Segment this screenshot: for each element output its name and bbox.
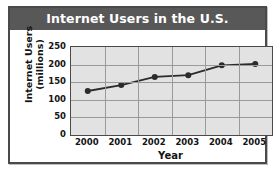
data-point-marker: [152, 74, 158, 80]
x-axis-tick-label: 2002: [142, 137, 166, 147]
gridline-vertical: [172, 47, 173, 135]
x-axis-tick-label: 2003: [175, 137, 199, 147]
x-axis-tick-label: 2001: [108, 137, 132, 147]
data-point-marker: [85, 88, 91, 94]
chart-title: Internet Users in the U.S.: [46, 13, 228, 26]
x-axis-tick-label: 2000: [75, 137, 99, 147]
gridline-vertical: [239, 47, 240, 135]
x-axis-tick-label: 2004: [209, 137, 233, 147]
plot-area: [70, 46, 273, 136]
chart-figure: Internet Users in the U.S. Internet User…: [0, 0, 277, 175]
chart-title-band: Internet Users in the U.S.: [10, 8, 265, 30]
y-axis-tick-labels: 050100150200250: [44, 46, 68, 134]
chart-frame: Internet Users in the U.S. Internet User…: [8, 6, 267, 164]
y-axis-tick-label: 150: [48, 76, 66, 86]
x-axis-title: Year: [70, 150, 271, 161]
gridline-vertical: [105, 47, 106, 135]
y-axis-tick-label: 200: [48, 59, 66, 69]
y-axis-tick-label: 100: [48, 94, 66, 104]
gridline-vertical: [205, 47, 206, 135]
plot-wrapper: Internet Users (millions) 05010015020025…: [10, 30, 265, 162]
y-axis-tick-label: 0: [60, 129, 66, 139]
gridline-vertical: [138, 47, 139, 135]
x-axis-tick-label: 2005: [242, 137, 266, 147]
y-axis-tick-label: 50: [54, 111, 66, 121]
x-axis-tick-labels: 200020012002200320042005: [70, 137, 271, 149]
y-axis-title: Internet Users (millions): [24, 21, 45, 109]
data-point-marker: [185, 72, 191, 78]
y-axis-tick-label: 250: [48, 41, 66, 51]
